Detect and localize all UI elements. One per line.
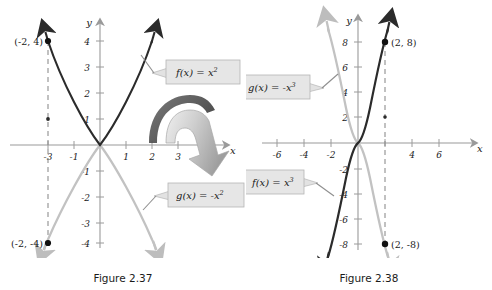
figure-2-38-plot: -6 -4 -2 4 6 8 6 4 2 -2 -4 -6 -8 x y: [246, 0, 492, 258]
point-label-2-neg8: (2, -8): [391, 239, 420, 250]
point-marker-2-8: [382, 39, 388, 45]
figure-2-38: -6 -4 -2 4 6 8 6 4 2 -2 -4 -6 -8 x y: [246, 0, 492, 290]
point-label-neg2-neg4: (-2, -4): [11, 238, 43, 249]
point-marker-2-neg8: [382, 241, 388, 247]
y-tick-label-neg4: -4: [81, 239, 90, 249]
y-tick-label-neg6: -6: [339, 215, 348, 225]
figure-2-37: -3 -1 1 2 3 4 3 2 1 -1 -2 -3 -4 x y: [0, 0, 246, 290]
y-tick-label-neg8: -8: [339, 240, 348, 250]
y-tick-label-4: 4: [83, 37, 90, 47]
dashed-midpoint-dot: [46, 117, 50, 121]
curve-f-upper-arrow: [387, 22, 389, 33]
callout-f-x-squared: f(x) = x2: [141, 55, 240, 84]
y-axis-label: y: [85, 17, 92, 28]
curve-f-right-arrow: [151, 32, 154, 43]
curve-g-lower-arrow: [387, 252, 389, 258]
point-marker-neg2-4: [45, 38, 51, 44]
callout-f3-label: f(x) = x3: [251, 176, 294, 188]
figure-pair-container: -3 -1 1 2 3 4 3 2 1 -1 -2 -3 -4 x y: [0, 0, 492, 290]
y-tick-label-6: 6: [342, 63, 348, 73]
figure-2-37-plot: -3 -1 1 2 3 4 3 2 1 -1 -2 -3 -4 x y: [0, 0, 246, 258]
x-tick-label-neg1: -1: [70, 152, 79, 162]
x-axis-label: x: [477, 143, 483, 154]
figure-caption-left: Figure 2.37: [0, 272, 246, 284]
figure-caption-right: Figure 2.38: [246, 272, 492, 284]
callout-g-neg-x-squared: g(x) = -x2: [143, 183, 244, 210]
point-label-neg2-4: (-2, 4): [14, 36, 43, 47]
x-tick-label-6: 6: [436, 150, 442, 160]
x-tick-label-1: 1: [123, 152, 129, 162]
callout-f-label: f(x) = x2: [175, 66, 218, 78]
y-tick-label-3: 3: [84, 63, 90, 73]
y-tick-label-2: 2: [83, 89, 90, 99]
x-tick-label-2: 2: [148, 152, 155, 162]
y-tick-label-8: 8: [342, 38, 348, 48]
point-label-2-8: (2, 8): [391, 37, 417, 48]
x-axis-label: x: [230, 145, 236, 156]
curve-g-upper-arrow: [327, 21, 329, 32]
callout-g-label: g(x) = -x2: [176, 189, 224, 201]
y-axis-label: y: [345, 15, 352, 26]
x-tick-label-neg4: -4: [300, 150, 309, 160]
x-tick-label-3: 3: [175, 152, 181, 162]
curve-f-lower-arrow: [327, 252, 329, 258]
x-tick-label-neg6: -6: [273, 150, 282, 160]
y-tick-label-neg2: -2: [81, 193, 90, 203]
callout-f-x-cubed: f(x) = x3: [246, 170, 334, 196]
point-marker-neg2-neg4: [45, 240, 51, 246]
dashed-midpoint-dot: [383, 115, 387, 119]
x-tick-label-4: 4: [408, 150, 415, 160]
y-tick-label-neg3: -3: [81, 219, 90, 229]
x-tick-label-neg2: -2: [327, 150, 336, 160]
callout-g3-label: g(x) = -x3: [248, 81, 296, 93]
callout-g-neg-x-cubed: g(x) = -x3: [246, 74, 338, 99]
reflection-arrow-icon: [149, 95, 229, 176]
curve-g-right-arrow: [153, 241, 156, 250]
